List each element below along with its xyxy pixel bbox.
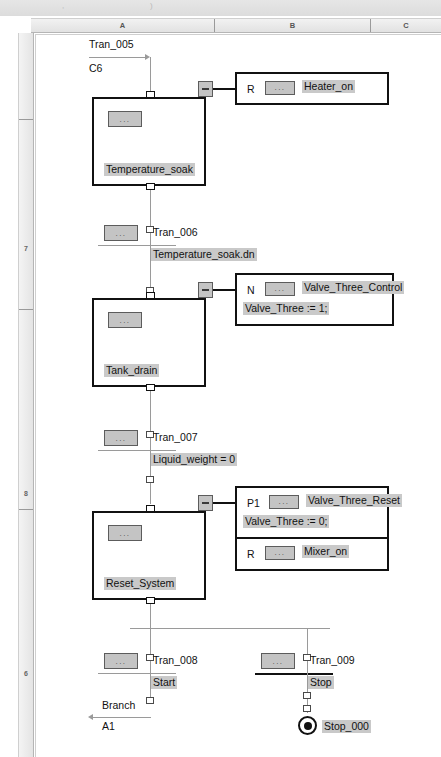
step-reset-system[interactable]: ... Reset_System (92, 511, 206, 600)
step-temperature-soak-collapse-button[interactable] (198, 81, 213, 97)
action-valve-three-control-name[interactable]: Valve_Three_Control (302, 281, 404, 294)
tran-007-chip-label: ... (105, 435, 137, 443)
branch-target-ref[interactable]: A1 (102, 720, 115, 733)
tran-007-lower-connector[interactable] (146, 476, 154, 483)
entry-source-ref[interactable]: C6 (89, 62, 102, 75)
step-tank-drain-chip[interactable]: ... (108, 312, 142, 328)
rail-step3-to-divergence (150, 604, 151, 629)
action-valve-three-control-body[interactable]: Valve_Three := 1; (243, 302, 329, 315)
tran-006-bar (98, 245, 176, 246)
entry-arrow-line (89, 57, 146, 58)
step-temperature-soak-bottom-connector[interactable] (146, 183, 155, 190)
branch-return-arrow-head (88, 714, 93, 720)
step-temperature-soak-chip-label: ... (109, 116, 141, 124)
row-header-0[interactable] (19, 33, 33, 120)
branch-label[interactable]: Branch (102, 699, 135, 712)
column-header-b[interactable]: B (215, 19, 371, 32)
action-valve-three-control-chip[interactable]: ... (265, 282, 295, 296)
step-temperature-soak-name[interactable]: Temperature_soak (104, 163, 195, 176)
tran-009-bar (255, 673, 333, 675)
row-header-8-label: 8 (19, 490, 33, 497)
rail-step1-to-tran006 (150, 190, 151, 230)
action-valve-three-control-chip-label: ... (266, 285, 294, 293)
tran-009-chip[interactable]: ... (261, 653, 295, 669)
step-tank-drain-collapse-button[interactable] (198, 282, 213, 298)
step-reset-system-name[interactable]: Reset_System (104, 577, 176, 590)
action-mixer-on-qualifier: R (247, 548, 255, 561)
step-reset-system-action-link (213, 502, 237, 504)
step-reset-system-bottom-connector[interactable] (146, 597, 155, 604)
ghost-mark-right: ) (150, 1, 153, 10)
action-valve-three-reset-body[interactable]: Valve_Three := 0; (243, 515, 329, 528)
step-tank-drain[interactable]: ... Tank_drain (92, 298, 206, 387)
action-heater-on-chip[interactable]: ... (265, 81, 295, 95)
stop-000-marker[interactable] (298, 716, 317, 735)
step-tank-drain-bottom-connector[interactable] (146, 384, 155, 391)
tran-008-chip[interactable]: ... (104, 653, 138, 669)
step-tank-drain-action-link (213, 289, 237, 291)
tran-008-label[interactable]: Tran_008 (153, 654, 198, 667)
column-header-a[interactable]: A (31, 19, 215, 32)
tran-008-chip-label: ... (105, 658, 137, 666)
step-temperature-soak-chip[interactable]: ... (108, 111, 142, 127)
action-mixer-on-chip-label: ... (266, 549, 294, 557)
action-mixer-on-name[interactable]: Mixer_on (302, 545, 349, 558)
action-valve-three-control[interactable]: N ... Valve_Three_Control Valve_Three :=… (235, 273, 394, 326)
column-header-c[interactable]: C (371, 19, 441, 32)
action-group-reset-system[interactable]: P1 ... Valve_Three_Reset Valve_Three := … (235, 486, 389, 571)
tran-009-label[interactable]: Tran_009 (310, 654, 355, 667)
stop-000-top-connector[interactable] (303, 705, 311, 712)
tran-008-bar (98, 673, 176, 674)
entry-rail (150, 57, 151, 94)
tran-008-lower-connector[interactable] (146, 697, 154, 704)
tran-007-bar (98, 450, 176, 451)
rail-step2-to-tran007 (150, 391, 151, 435)
action-heater-on[interactable]: R ... Heater_on (235, 72, 389, 105)
divergence-bar (130, 628, 330, 629)
rail-tran006-to-step2 (150, 233, 151, 293)
tran-009-chip-label: ... (262, 658, 294, 666)
row-header-7[interactable]: 7 (19, 120, 33, 310)
step-temperature-soak[interactable]: ... Temperature_soak (92, 97, 206, 186)
row-ruler[interactable]: 7 8 6 (18, 33, 34, 757)
tran-006-chip[interactable]: ... (104, 225, 138, 241)
row-header-7-label: 7 (19, 245, 33, 252)
action-valve-three-reset-qualifier: P1 (247, 497, 260, 510)
step-reset-system-collapse-button[interactable] (198, 495, 213, 511)
stop-000-label[interactable]: Stop_000 (322, 720, 371, 733)
action-valve-three-reset-chip-label: ... (270, 498, 298, 506)
tran-006-chip-label: ... (105, 230, 137, 238)
tran-009-condition[interactable]: Stop (308, 676, 334, 689)
entry-transition-label[interactable]: Tran_005 (89, 38, 134, 51)
tran-006-label[interactable]: Tran_006 (153, 226, 198, 239)
row-header-6-label: 6 (19, 670, 33, 677)
canvas-left-border (35, 34, 36, 757)
canvas-top-border (35, 34, 441, 35)
tran-006-condition[interactable]: Temperature_soak.dn (151, 248, 257, 261)
action-valve-three-reset-chip[interactable]: ... (269, 495, 299, 509)
step-reset-system-chip-label: ... (109, 530, 141, 538)
step-tank-drain-chip-label: ... (109, 317, 141, 325)
action-heater-on-qualifier: R (247, 83, 255, 96)
step-temperature-soak-action-link (213, 88, 237, 90)
tran-007-chip[interactable]: ... (104, 430, 138, 446)
action-group-divider (237, 537, 387, 539)
step-tank-drain-name[interactable]: Tank_drain (104, 364, 159, 377)
step-reset-system-chip[interactable]: ... (108, 525, 142, 541)
tran-007-label[interactable]: Tran_007 (153, 431, 198, 444)
column-ruler[interactable]: A B C (31, 18, 441, 33)
action-mixer-on-chip[interactable]: ... (265, 546, 295, 560)
tran-009-lower-connector[interactable] (303, 692, 311, 699)
action-heater-on-name[interactable]: Heater_on (302, 80, 355, 93)
action-heater-on-chip-label: ... (266, 84, 294, 92)
action-valve-three-reset-name[interactable]: Valve_Three_Reset (306, 494, 402, 507)
tran-008-condition[interactable]: Start (151, 676, 177, 689)
row-header-8[interactable]: 8 (19, 310, 33, 510)
branch-return-line (92, 717, 151, 718)
tran-007-condition[interactable]: Liquid_weight = 0 (151, 453, 237, 466)
window-top-strip: , ) (0, 0, 441, 16)
row-header-6[interactable]: 6 (19, 510, 33, 680)
rail-tran007-to-step3 (150, 438, 151, 504)
sfc-canvas[interactable]: Tran_005 C6 ... Temperature_soak R ... H… (35, 34, 441, 757)
ghost-mark-left: , (62, 1, 64, 10)
